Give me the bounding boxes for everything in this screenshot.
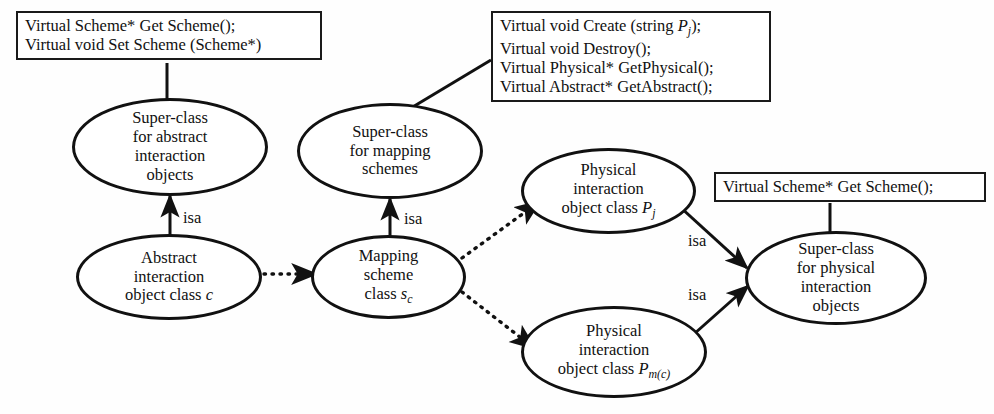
line-1: Physical bbox=[558, 322, 671, 341]
edge-label-isa-abstract: isa bbox=[183, 208, 201, 228]
line-2: for abstract bbox=[132, 128, 208, 147]
box-abstract-methods[interactable]: Virtual Scheme* Get Scheme(); Virtual vo… bbox=[16, 11, 322, 60]
line-2: interaction bbox=[125, 268, 213, 287]
line-2: interaction bbox=[561, 180, 655, 199]
box-abstract-methods-line-1: Virtual Scheme* Get Scheme(); bbox=[25, 16, 313, 35]
line-2: scheme bbox=[359, 266, 419, 285]
box-mapping-methods-line-4: Virtual Abstract* GetAbstract(); bbox=[500, 77, 762, 96]
diagram-canvas: Virtual Scheme* Get Scheme(); Virtual vo… bbox=[0, 0, 994, 414]
line-1: Super-class bbox=[797, 240, 875, 259]
line-3: object class c bbox=[125, 286, 213, 305]
node-mapping-class[interactable]: Mapping scheme class sc bbox=[311, 235, 466, 319]
line-1: Abstract bbox=[125, 249, 213, 268]
box-mapping-methods-line-1: Virtual void Create (string Pj); bbox=[500, 16, 762, 39]
line-3: schemes bbox=[349, 160, 430, 179]
line-2: for physical bbox=[797, 259, 875, 278]
node-physical-pj[interactable]: Physical interaction object class Pj bbox=[521, 148, 696, 234]
node-superclass-mapping-text: Super-class for mapping schemes bbox=[343, 123, 436, 179]
node-abstract-class[interactable]: Abstract interaction object class c bbox=[76, 234, 262, 320]
line-4: objects bbox=[797, 297, 875, 316]
edge-label-isa-physical-pj: isa bbox=[688, 231, 706, 251]
line-1: Mapping bbox=[359, 247, 419, 266]
node-superclass-physical[interactable]: Super-class for physical interaction obj… bbox=[745, 231, 927, 325]
box-abstract-methods-line-2: Virtual void Set Scheme (Scheme*) bbox=[25, 35, 313, 54]
line-3: object class Pj bbox=[561, 199, 655, 221]
box-mapping-methods-line-2: Virtual void Destroy(); bbox=[500, 39, 762, 58]
box-physical-methods-line-1: Virtual Scheme* Get Scheme(); bbox=[723, 177, 977, 196]
connector-mapping-to-pj bbox=[462, 202, 539, 258]
node-physical-pmc[interactable]: Physical interaction object class Pm(c) bbox=[521, 306, 707, 398]
line-3: class sc bbox=[359, 285, 419, 307]
node-abstract-class-text: Abstract interaction object class c bbox=[119, 249, 219, 305]
line-3: interaction bbox=[132, 147, 208, 166]
line-3: interaction bbox=[797, 278, 875, 297]
node-physical-pj-text: Physical interaction object class Pj bbox=[555, 161, 661, 220]
line-1: Super-class bbox=[349, 123, 430, 142]
box-physical-methods[interactable]: Virtual Scheme* Get Scheme(); bbox=[714, 172, 986, 202]
node-superclass-mapping[interactable]: Super-class for mapping schemes bbox=[297, 103, 483, 199]
node-superclass-abstract[interactable]: Super-class for abstract interaction obj… bbox=[72, 98, 268, 196]
line-4: objects bbox=[132, 166, 208, 185]
line-3: object class Pm(c) bbox=[558, 360, 671, 382]
line-1: Physical bbox=[561, 161, 655, 180]
line-2: for mapping bbox=[349, 142, 430, 161]
box-mapping-methods-line-3: Virtual Physical* GetPhysical(); bbox=[500, 58, 762, 77]
node-physical-pmc-text: Physical interaction object class Pm(c) bbox=[552, 322, 677, 381]
node-mapping-class-text: Mapping scheme class sc bbox=[353, 247, 425, 306]
line-1: Super-class bbox=[132, 109, 208, 128]
node-superclass-physical-text: Super-class for physical interaction obj… bbox=[791, 240, 881, 315]
box-mapping-methods[interactable]: Virtual void Create (string Pj); Virtual… bbox=[491, 11, 771, 102]
node-superclass-abstract-text: Super-class for abstract interaction obj… bbox=[126, 109, 214, 184]
line-2: interaction bbox=[558, 341, 671, 360]
edge-label-isa-physical-pmc: isa bbox=[688, 285, 706, 305]
edge-label-isa-mapping: isa bbox=[404, 209, 422, 229]
